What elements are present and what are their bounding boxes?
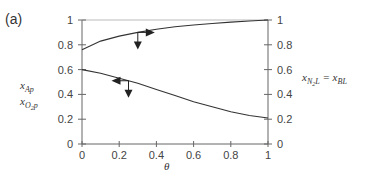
right-y-tick-label: 0.4 bbox=[277, 88, 292, 100]
left-axis-label-xo2p: xO2p bbox=[19, 95, 38, 111]
x-tick-label: 1 bbox=[265, 149, 271, 161]
x-tick-label: 0.4 bbox=[149, 149, 164, 161]
left-y-tick-label: 0.8 bbox=[58, 39, 73, 51]
left-y-tick-label: 0.2 bbox=[58, 113, 73, 125]
x-tick-label: 0 bbox=[79, 149, 85, 161]
right-y-tick-label: 0.2 bbox=[277, 113, 292, 125]
right-axis-label: xN2L = xBL bbox=[301, 71, 347, 87]
series-curve-0 bbox=[82, 20, 268, 50]
left-axis-label-xap: xAp bbox=[19, 79, 34, 94]
left-y-tick-label: 1 bbox=[67, 14, 73, 26]
curves bbox=[82, 20, 268, 118]
right-y-tick-label: 0 bbox=[277, 138, 283, 150]
x-tick-label: 0.2 bbox=[112, 149, 127, 161]
annotation-arrows bbox=[112, 28, 155, 97]
left-y-tick-label: 0 bbox=[67, 138, 73, 150]
arrow-down-icon bbox=[134, 41, 142, 49]
tick-marks: 00.20.40.60.8100.20.40.60.8100.20.40.60.… bbox=[58, 14, 293, 161]
right-y-tick-label: 0.6 bbox=[277, 64, 292, 76]
x-tick-label: 0.6 bbox=[186, 149, 201, 161]
left-y-tick-label: 0.4 bbox=[58, 88, 73, 100]
right-y-tick-label: 1 bbox=[277, 14, 283, 26]
arrow-down-icon bbox=[125, 90, 133, 98]
panel-label: (a) bbox=[5, 11, 22, 27]
left-y-tick-label: 0.6 bbox=[58, 64, 73, 76]
chart-canvas: 00.20.40.60.8100.20.40.60.8100.20.40.60.… bbox=[0, 0, 366, 185]
right-y-tick-label: 0.8 bbox=[277, 39, 292, 51]
x-axis-label: θ bbox=[164, 160, 170, 172]
x-tick-label: 0.8 bbox=[223, 149, 238, 161]
series-curve-1 bbox=[82, 70, 268, 118]
